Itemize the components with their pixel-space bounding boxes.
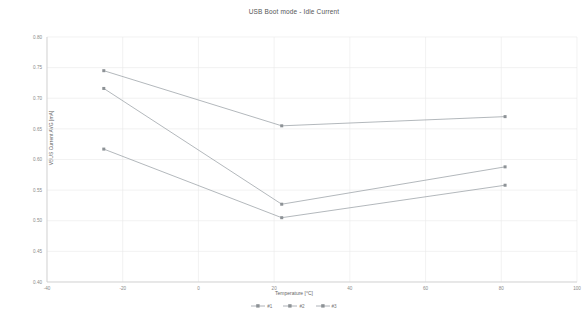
svg-text:0.50: 0.50: [33, 218, 42, 223]
series-3: [102, 148, 506, 220]
data-series-layer: [102, 69, 506, 219]
svg-text:0.65: 0.65: [33, 127, 42, 132]
legend-label: #2: [299, 304, 304, 309]
svg-text:100: 100: [573, 286, 581, 291]
series-2: [102, 87, 506, 206]
svg-text:0.45: 0.45: [33, 249, 42, 254]
chart-container: USB Boot mode - Idle Current VBUS Curren…: [0, 0, 588, 330]
legend-label: #3: [332, 304, 337, 309]
svg-text:0: 0: [197, 286, 200, 291]
svg-text:-20: -20: [119, 286, 126, 291]
svg-text:0.80: 0.80: [33, 35, 42, 40]
svg-text:80: 80: [499, 286, 505, 291]
gridlines: [47, 37, 577, 282]
plot-area: 0.800.750.700.650.600.550.500.450.40 -40…: [0, 0, 588, 330]
svg-text:60: 60: [423, 286, 429, 291]
svg-text:0.75: 0.75: [33, 65, 42, 70]
svg-text:0.60: 0.60: [33, 157, 42, 162]
svg-text:40: 40: [347, 286, 353, 291]
legend-item-1[interactable]: #1: [251, 303, 272, 309]
y-tick-labels: 0.800.750.700.650.600.550.500.450.40: [33, 35, 42, 285]
legend-item-3[interactable]: #3: [316, 303, 337, 309]
legend-symbol-icon: [283, 303, 297, 309]
legend-symbol-icon: [251, 303, 265, 309]
chart-legend: #1#2#3: [0, 303, 588, 309]
legend-symbol-icon: [316, 303, 330, 309]
x-tick-labels: -40-20020406080100: [44, 286, 582, 291]
svg-text:20: 20: [272, 286, 278, 291]
svg-text:0.55: 0.55: [33, 188, 42, 193]
svg-text:0.70: 0.70: [33, 96, 42, 101]
legend-item-2[interactable]: #2: [283, 303, 304, 309]
svg-text:0.40: 0.40: [33, 280, 42, 285]
legend-label: #1: [267, 304, 272, 309]
svg-text:-40: -40: [44, 286, 51, 291]
